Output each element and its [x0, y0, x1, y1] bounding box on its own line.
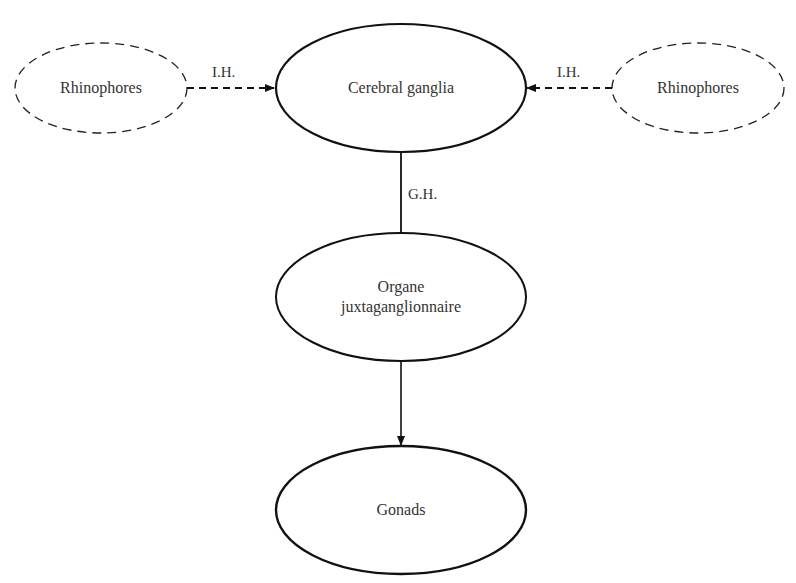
organe-label-line1: Organe — [341, 277, 461, 297]
gonads-label: Gonads — [377, 500, 426, 520]
edge-left-ih-label: I.H. — [212, 64, 235, 80]
organe-label-line2: juxtaganglionnaire — [341, 297, 461, 317]
edge-right-ih-label: I.H. — [557, 64, 580, 80]
cerebral-ganglia-label: Cerebral ganglia — [348, 78, 454, 98]
rhinophores-right-label: Rhinophores — [657, 78, 739, 98]
edge-gh-label: G.H. — [408, 186, 437, 202]
organe-juxtaganglionnaire-label: Organe juxtaganglionnaire — [341, 277, 461, 317]
rhinophores-left-label: Rhinophores — [60, 78, 142, 98]
